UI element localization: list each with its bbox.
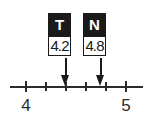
marker-value-t: 4.2 bbox=[48, 37, 71, 56]
tick-5 bbox=[125, 81, 127, 92]
marker-flag-n: N 4.8 bbox=[83, 13, 106, 56]
marker-letter-t: T bbox=[48, 13, 71, 37]
number-line-axis bbox=[10, 86, 143, 88]
tick-4-4 bbox=[65, 82, 67, 91]
tick-4-2 bbox=[45, 82, 47, 91]
axis-label-4: 4 bbox=[16, 96, 36, 116]
marker-flag-t: T 4.2 bbox=[48, 13, 71, 56]
axis-label-5: 5 bbox=[116, 96, 136, 116]
arrow-head bbox=[96, 75, 104, 86]
tick-4 bbox=[25, 81, 27, 92]
marker-letter-n: N bbox=[83, 13, 106, 37]
marker-value-n: 4.8 bbox=[83, 37, 106, 56]
number-line-figure: T 4.2 N 4.8 4 5 bbox=[0, 0, 151, 127]
tick-4-6 bbox=[85, 82, 87, 91]
tick-4-8 bbox=[105, 82, 107, 91]
